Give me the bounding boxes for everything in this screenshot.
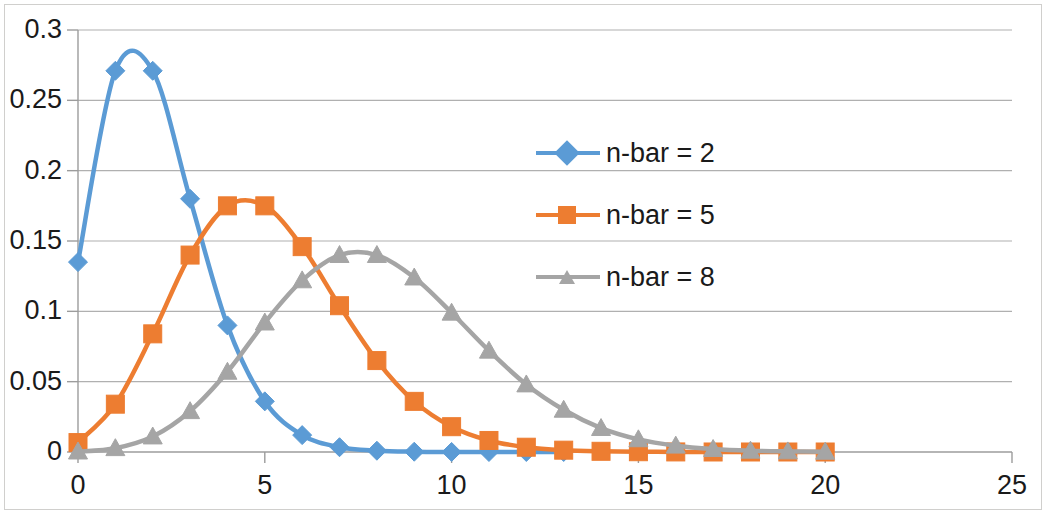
chart-legend: n-bar = 2 n-bar = 5 n-bar = 8 bbox=[536, 122, 786, 308]
legend-key-series-3 bbox=[536, 265, 600, 289]
legend-label-series-3: n-bar = 8 bbox=[606, 264, 715, 291]
y-axis-tick-label: 0.15 bbox=[0, 227, 62, 254]
y-axis-tick-label: 0.05 bbox=[0, 368, 62, 395]
x-axis-tick-label: 5 bbox=[230, 472, 300, 499]
x-axis-tick-label: 0 bbox=[43, 472, 113, 499]
y-axis-tick-label: 0.2 bbox=[0, 157, 62, 184]
x-axis-tick-label: 25 bbox=[977, 472, 1047, 499]
y-axis-tick-label: 0.25 bbox=[0, 86, 62, 113]
legend-label-series-1: n-bar = 2 bbox=[606, 140, 715, 167]
legend-item[interactable]: n-bar = 5 bbox=[536, 184, 786, 246]
legend-key-series-2 bbox=[536, 203, 600, 227]
x-axis-tick-label: 20 bbox=[790, 472, 860, 499]
triangle-marker-icon bbox=[558, 268, 576, 286]
diamond-marker-icon bbox=[554, 140, 579, 165]
legend-key-series-1 bbox=[536, 141, 600, 165]
poisson-distribution-chart: 00.050.10.150.20.250.3 0510152025 n-bar … bbox=[0, 0, 1047, 522]
legend-item[interactable]: n-bar = 8 bbox=[536, 246, 786, 308]
x-axis-tick-label: 15 bbox=[603, 472, 673, 499]
y-axis-tick-label: 0 bbox=[0, 438, 62, 465]
legend-label-series-2: n-bar = 5 bbox=[606, 202, 715, 229]
y-axis-tick-label: 0.1 bbox=[0, 297, 62, 324]
x-axis-tick-label: 10 bbox=[417, 472, 487, 499]
legend-item[interactable]: n-bar = 2 bbox=[536, 122, 786, 184]
y-axis-ticks bbox=[67, 30, 78, 452]
plot-area bbox=[0, 0, 1047, 522]
data-series bbox=[69, 51, 574, 462]
y-axis-tick-label: 0.3 bbox=[0, 16, 62, 43]
square-marker-icon bbox=[558, 206, 576, 224]
